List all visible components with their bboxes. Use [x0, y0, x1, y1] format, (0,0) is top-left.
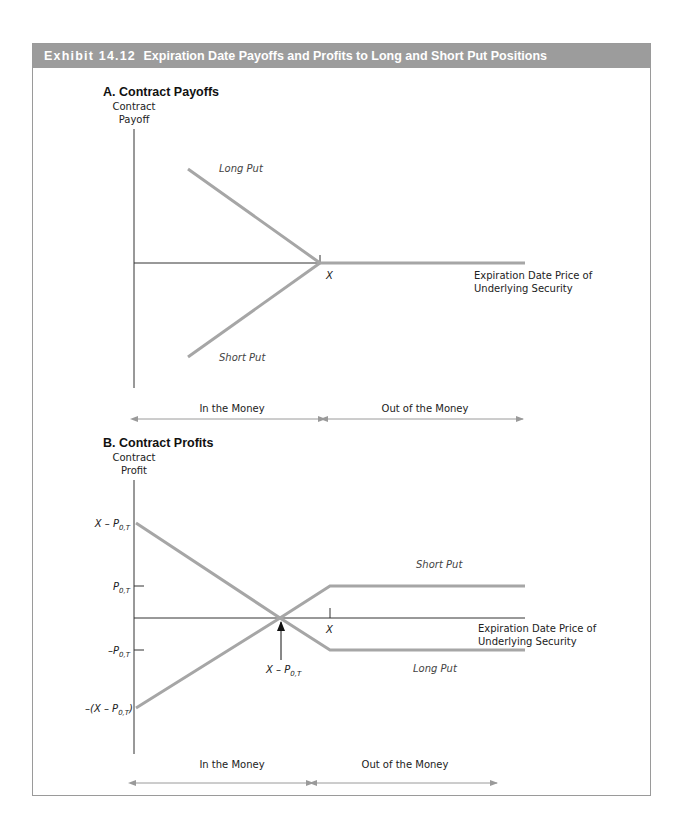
panel-b-xlabel-1: Expiration Date Price of: [478, 623, 597, 634]
panel-b-breakeven-label: X – P0,T: [265, 664, 302, 678]
panel-b-tick-premium-label: P0,T: [113, 581, 131, 595]
panel-a-short-put-line: [188, 263, 320, 357]
panel-b-short-put-line: [136, 586, 525, 708]
panel-b-strike-label: X: [325, 624, 334, 635]
panel-b-region-otm: Out of the Money: [362, 759, 449, 770]
panel-b-tick-neg-premium-label: –P0,T: [108, 645, 131, 659]
panel-a: A. Contract Payoffs Contract Payoff Long…: [103, 85, 593, 419]
panel-a-ylabel-1: Contract: [112, 101, 155, 112]
chart-canvas: A. Contract Payoffs Contract Payoff Long…: [0, 0, 683, 836]
panel-b-tick-min-label: –(X – P0,T): [85, 703, 133, 717]
panel-a-long-put-line: [188, 169, 525, 263]
panel-a-xlabel-1: Expiration Date Price of: [474, 270, 593, 281]
panel-b: B. Contract Profits Contract Profit X – …: [85, 436, 597, 783]
panel-a-region-otm: Out of the Money: [382, 403, 469, 414]
panel-a-short-put-label: Short Put: [219, 352, 266, 363]
panel-a-ylabel-2: Payoff: [119, 114, 151, 125]
panel-b-long-put-label: Long Put: [413, 663, 458, 674]
panel-a-long-put-label: Long Put: [219, 163, 264, 174]
panel-b-tick-max-label: X – P0,T: [94, 518, 131, 532]
panel-b-short-put-label: Short Put: [416, 559, 463, 570]
panel-b-region-itm: In the Money: [199, 759, 264, 770]
panel-a-title: A. Contract Payoffs: [103, 85, 219, 99]
panel-a-region-itm: In the Money: [199, 403, 264, 414]
panel-b-title: B. Contract Profits: [103, 436, 213, 450]
panel-b-ylabel-1: Contract: [112, 452, 155, 463]
panel-a-xlabel-2: Underlying Security: [474, 283, 573, 294]
panel-a-strike-label: X: [325, 270, 334, 281]
panel-b-ylabel-2: Profit: [121, 465, 147, 476]
panel-b-xlabel-2: Underlying Security: [478, 636, 577, 647]
